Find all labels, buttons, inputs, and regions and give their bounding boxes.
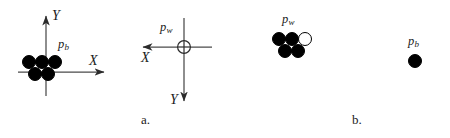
- panel-a-right-axes: [143, 18, 212, 101]
- axes-layer: [0, 0, 450, 138]
- panel-a-world-x-axis-label: X: [141, 51, 150, 65]
- panel-a-cluster-label: pb: [58, 38, 69, 52]
- panel-a-dot: [41, 67, 55, 81]
- panel-a-world-origin-label: pw: [160, 21, 172, 35]
- panel-a-world-origin-label-subscript: w: [166, 25, 172, 35]
- panel-b-single-dot-label-subscript: b: [414, 39, 419, 49]
- panel-b-dot: [278, 44, 292, 58]
- panel-b-cluster-label: pw: [282, 13, 294, 27]
- figure-container: Y X pb X Y pw pw pb a. b.: [0, 0, 450, 138]
- panel-a-cluster-label-subscript: b: [64, 42, 69, 52]
- panel-b-cluster-label-subscript: w: [288, 17, 294, 27]
- panel-a-x-axis-label: X: [89, 54, 98, 68]
- panel-b-single-dot: [408, 54, 422, 68]
- panel-a-world-y-axis-label: Y: [170, 93, 178, 107]
- panel-b-single-dot-label: pb: [408, 35, 419, 49]
- panel-a-dot: [28, 67, 42, 81]
- panel-b-caption: b.: [352, 113, 362, 126]
- panel-a-y-axis-label: Y: [52, 9, 60, 23]
- panel-b-dot: [291, 44, 305, 58]
- panel-a-caption: a.: [141, 113, 150, 126]
